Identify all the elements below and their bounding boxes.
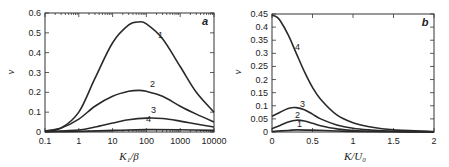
y-tick-label: 0.2 [28,87,41,97]
chart-panel-b: 00.511.5200.050.10.150.20.250.30.350.40.… [231,9,437,162]
y-tick-label: 0.25 [250,61,268,71]
x-tick-label: 0 [269,136,274,146]
y-tick-label: 0.3 [28,68,41,78]
y-tick-label: 0.2 [255,75,268,85]
y-tick-label: 0.35 [250,35,268,45]
series-label-3: 3 [151,105,156,115]
x-axis-label: K/U₀ [343,150,366,162]
panel-label: b [422,16,429,28]
series-line-2 [45,90,214,131]
x-tick-label: 0.5 [306,136,319,146]
y-tick-label: 0 [263,127,268,137]
y-tick-label: 0.1 [28,107,41,117]
y-tick-label: 0.15 [250,88,268,98]
x-tick-label: 100 [139,136,154,146]
y-tick-label: 0.3 [255,48,268,58]
y-tick-label: 0.5 [28,28,41,38]
y-axis-label: v [231,69,243,74]
x-tick-label: 10000 [201,136,226,146]
x-tick-label: 1.5 [387,136,400,146]
series-label-1: 1 [297,119,302,129]
x-tick-label: 2 [431,136,436,146]
x-tick-label: 10 [108,136,118,146]
y-tick-label: 0 [36,127,41,137]
y-axis-label: v [4,69,16,74]
plot-frame [45,13,214,132]
x-tick-label: 1 [76,136,81,146]
x-tick-label: 1 [350,136,355,146]
figure: 0.111010010001000000.10.20.30.40.50.6123… [0,0,449,167]
x-axis-label: K₁/β [118,150,139,162]
y-tick-label: 0.45 [250,9,268,19]
series-label-3: 3 [300,99,305,109]
series-line-1 [45,22,214,131]
series-label-2: 2 [150,79,155,89]
series-label-4: 4 [295,42,300,52]
series-label-4: 4 [146,114,151,124]
x-tick-label: 1000 [170,136,190,146]
y-tick-label: 0.05 [250,114,268,124]
panel-label: a [202,15,208,27]
chart-panel-a: 0.111010010001000000.10.20.30.40.50.6123… [4,8,227,162]
y-tick-label: 0.1 [255,101,268,111]
series-label-1: 1 [158,30,163,40]
y-tick-label: 0.4 [255,22,268,32]
x-tick-label: 0.1 [39,136,52,146]
y-tick-label: 0.6 [28,8,41,18]
y-tick-label: 0.4 [28,48,41,58]
